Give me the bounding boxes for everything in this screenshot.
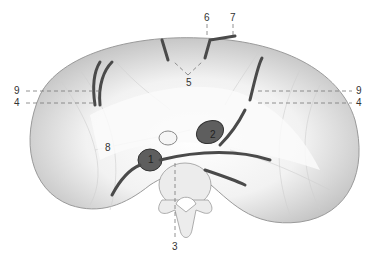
label-8: 8 [105,143,111,153]
diaphragm-drawing [0,0,376,260]
label-7: 7 [230,13,236,23]
esophagus-lumen [159,131,177,145]
label-4-right: 4 [356,98,362,108]
label-5: 5 [186,78,192,88]
vertebra [159,163,212,238]
label-3: 3 [172,242,178,252]
label-1: 1 [148,155,154,165]
label-9-left: 9 [14,86,20,96]
label-2: 2 [210,130,216,140]
label-4-left: 4 [14,98,20,108]
label-9-right: 9 [356,86,362,96]
label-6: 6 [204,13,210,23]
diaphragm-illustration: 6 7 5 9 4 9 4 8 3 1 2 [0,0,376,260]
